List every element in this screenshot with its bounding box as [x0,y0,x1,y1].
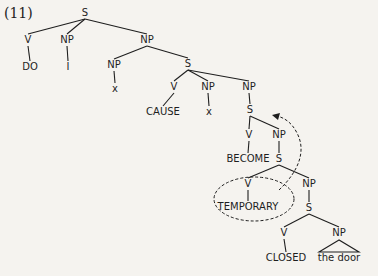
tree-node-s2: S [247,105,253,115]
dashed-circle [214,177,294,221]
tree-node-v1: V [25,35,32,45]
tree-node-do: DO [22,62,38,72]
tree-node-s3: S [276,154,282,164]
tree-node-np8: NP [332,228,346,238]
tree-node-closed: CLOSED [266,253,306,263]
tree-edge [163,93,174,106]
tree-edge [85,19,147,34]
tree-node-np1: NP [60,35,74,45]
tree-node-temporary: TEMPORARY [218,202,279,212]
tree-node-v4: V [245,179,252,189]
tree-edge [114,46,147,59]
syntax-tree-diagram: (11) SVNPNPDOINPSxVNPNPCAUSExSVNPBECOMES… [0,0,378,276]
tree-edge [249,93,250,104]
tree-node-become: BECOME [227,154,270,164]
tree-lines [0,0,378,276]
tree-node-v3: V [246,130,253,140]
tree-node-cause: CAUSE [146,107,180,117]
tree-edge [279,165,309,178]
tree-node-s0: S [82,8,88,18]
tree-node-np2: NP [140,35,154,45]
tree-node-np7: NP [302,179,316,189]
tree-edge [248,141,249,153]
tree-node-thedoor: the door [318,253,360,263]
tree-node-v2: V [171,82,178,92]
tree-node-x1: x [112,84,118,94]
tree-edge [174,70,188,81]
tree-node-np4: NP [201,82,215,92]
tree-edge [284,214,309,227]
tree-edge [248,165,279,178]
tree-edge [250,116,279,129]
tree-edge [28,46,30,61]
tree-edge [309,214,339,227]
tree-node-np5: NP [242,82,256,92]
tree-node-v5: V [281,228,288,238]
tree-node-s4: S [306,203,312,213]
tree-node-i: I [67,62,70,72]
tree-edge [208,93,209,106]
np-triangle [319,240,359,252]
tree-edge [114,71,115,83]
tree-edge [67,46,68,61]
tree-node-np6: NP [272,130,286,140]
tree-edge [284,239,286,252]
tree-edge [147,46,188,58]
tree-node-x2: x [206,107,212,117]
example-number: (11) [4,5,33,21]
tree-edge [249,116,250,129]
arrowhead-icon [272,113,280,120]
tree-node-s1: S [185,59,191,69]
tree-node-np3: NP [107,60,121,70]
